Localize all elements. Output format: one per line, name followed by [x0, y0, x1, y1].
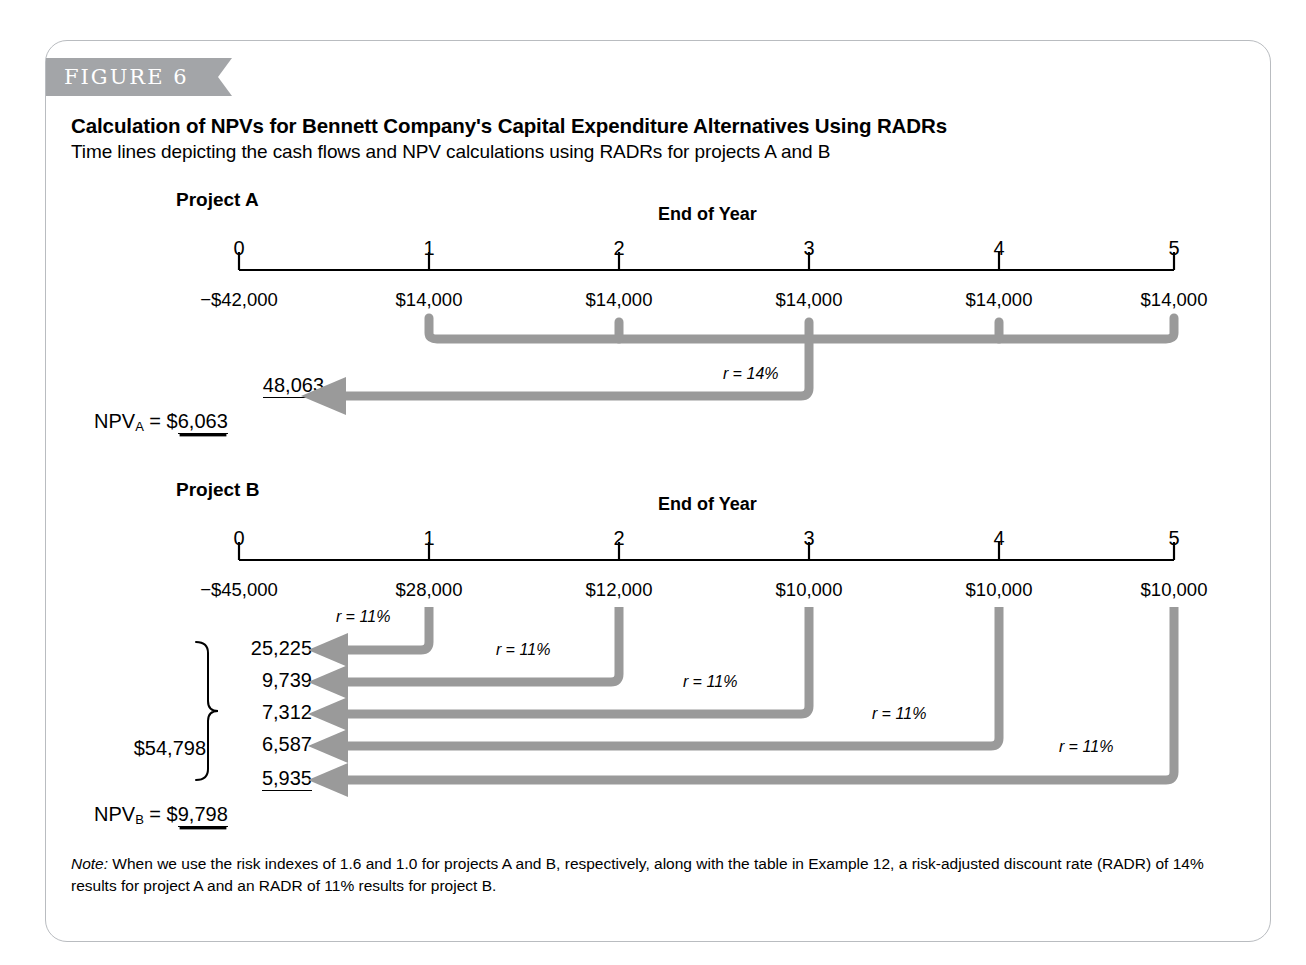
project-b-discounted-3: 7,312	[186, 701, 312, 724]
project-a-year-2: 2	[613, 237, 624, 260]
project-b-arrow-year5	[346, 607, 1174, 780]
project-b-arrow-year3	[346, 607, 809, 714]
figure-note-text: When we use the risk indexes of 1.6 and …	[71, 855, 1204, 894]
project-b-rate-label-3: r = 11%	[683, 673, 737, 691]
project-b-npv-line: NPVB = $9,798	[94, 803, 228, 827]
project-b-year-3: 3	[803, 527, 814, 550]
project-a-year-0: 0	[233, 237, 244, 260]
project-b-arrow-year4	[346, 607, 999, 746]
project-b-cashflow-5: $10,000	[1141, 579, 1208, 601]
figure-note: Note: When we use the risk indexes of 1.…	[71, 853, 1246, 898]
project-b-year-1: 1	[423, 527, 434, 550]
project-a-cashflow-3: $14,000	[776, 289, 843, 311]
project-b-timeline-axis	[239, 542, 1174, 560]
project-b-discounted-5: 5,935	[186, 767, 312, 790]
project-a-timeline-axis	[239, 252, 1174, 270]
project-b-label: Project B	[176, 479, 259, 501]
project-a-year-1: 1	[423, 237, 434, 260]
figure-banner: FIGURE 6	[46, 58, 218, 96]
project-b-end-of-year-label: End of Year	[658, 494, 757, 515]
project-b-cashflow-3: $10,000	[776, 579, 843, 601]
project-a-end-of-year-label: End of Year	[658, 204, 757, 225]
project-b-rate-label-1: r = 11%	[336, 608, 390, 626]
project-b-discounted-2: 9,739	[186, 669, 312, 692]
project-a-year-4: 4	[993, 237, 1004, 260]
figure-note-word: Note:	[71, 855, 108, 872]
project-b-cashflow-2: $12,000	[586, 579, 653, 601]
project-b-cashflow-1: $28,000	[396, 579, 463, 601]
project-a-pv-total: 48,063	[194, 374, 324, 397]
project-a-rate-label: r = 14%	[723, 365, 779, 383]
project-b-year-5: 5	[1168, 527, 1179, 550]
project-a-cashflow-1: $14,000	[396, 289, 463, 311]
figure-banner-arrow-icon	[218, 58, 232, 96]
project-b-cashflow-0: −$45,000	[200, 579, 278, 601]
project-a-cashflow-0: −$42,000	[200, 289, 278, 311]
project-a-cashflow-2: $14,000	[586, 289, 653, 311]
project-a-label: Project A	[176, 189, 259, 211]
project-a-cashflow-5: $14,000	[1141, 289, 1208, 311]
project-b-rate-label-5: r = 11%	[1059, 738, 1113, 756]
figure-container: FIGURE 6 Calculation of NPVs for Bennett…	[45, 40, 1271, 942]
project-a-annuity-bracket	[336, 318, 1174, 396]
project-b-arrowhead-1-icon	[308, 633, 348, 667]
project-a-npv-line: NPVA = $6,063	[94, 410, 228, 434]
figure-banner-label: FIGURE 6	[64, 65, 189, 89]
project-a-year-5: 5	[1168, 237, 1179, 260]
figure-title: Calculation of NPVs for Bennett Company'…	[71, 114, 947, 138]
project-b-year-2: 2	[613, 527, 624, 550]
project-b-arrowhead-5-icon	[308, 763, 348, 797]
project-b-discounted-1: 25,225	[186, 637, 312, 660]
project-b-year-0: 0	[233, 527, 244, 550]
project-b-year-4: 4	[993, 527, 1004, 550]
project-b-rate-label-2: r = 11%	[496, 641, 550, 659]
project-b-arrowhead-3-icon	[308, 697, 348, 731]
project-b-cashflow-4: $10,000	[966, 579, 1033, 601]
project-a-year-3: 3	[803, 237, 814, 260]
project-b-rate-label-4: r = 11%	[872, 705, 926, 723]
project-b-arrowhead-4-icon	[308, 729, 348, 763]
figure-subtitle: Time lines depicting the cash flows and …	[71, 141, 830, 163]
project-a-cashflow-4: $14,000	[966, 289, 1033, 311]
project-b-arrowhead-2-icon	[308, 665, 348, 699]
project-b-discounted-4: 6,587	[186, 733, 312, 756]
